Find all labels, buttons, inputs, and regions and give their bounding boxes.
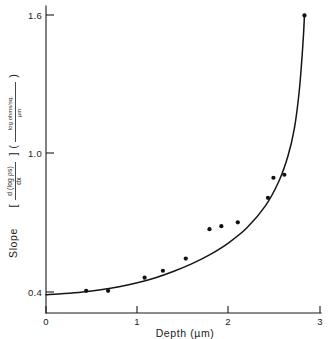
data-point xyxy=(143,276,147,280)
data-point xyxy=(266,196,270,200)
y-axis-ticks xyxy=(46,15,54,292)
data-point xyxy=(106,289,110,293)
y-axis-title-close-bracket: ] xyxy=(7,152,19,155)
x-tick-label-1: 1 xyxy=(134,316,140,327)
units-denominator: µm xyxy=(16,109,22,117)
y-axis-title-derivative-fraction: d (log ρs) dx xyxy=(6,162,22,200)
data-point xyxy=(207,227,211,231)
y-tick-label-mid: 1.0 xyxy=(28,148,42,159)
data-point xyxy=(84,289,88,293)
y-axis-title-open-paren: ( xyxy=(7,145,19,149)
fitted-curve xyxy=(46,15,304,295)
y-axis-title-group: Slope [ d (log ρs) dx ] ( log ohms/sq. µ… xyxy=(6,74,22,258)
data-point xyxy=(236,220,240,224)
data-point xyxy=(184,256,188,260)
data-point xyxy=(302,13,306,17)
x-tick-label-0: 0 xyxy=(43,316,49,327)
y-axis-title-close-paren: ) xyxy=(7,74,19,78)
x-axis-ticks xyxy=(46,306,320,313)
data-point-group xyxy=(84,13,306,293)
derivative-numerator: d (log ρs) xyxy=(6,166,14,196)
data-point xyxy=(271,176,275,180)
data-point xyxy=(219,224,223,228)
y-axis-title-lead: Slope xyxy=(7,228,19,258)
y-axis-title-units-fraction: log ohms/sq. µm xyxy=(7,82,22,142)
x-axis-title: Depth (µm) xyxy=(156,327,215,339)
y-axis-title-open-bracket: [ xyxy=(7,204,19,207)
x-tick-label-2: 2 xyxy=(225,316,231,327)
y-tick-label-low: 0.4 xyxy=(28,287,42,298)
x-tick-label-3: 3 xyxy=(317,316,323,327)
data-point xyxy=(161,269,165,273)
x-axis-tick-labels: 0 1 2 3 xyxy=(43,316,323,327)
data-point xyxy=(282,173,286,177)
derivative-denominator: dx xyxy=(15,177,22,185)
y-tick-label-high: 1.6 xyxy=(28,10,42,21)
units-numerator: log ohms/sq. xyxy=(7,96,13,130)
chart-figure: 1.6 1.0 0.4 0 1 2 3 Depth (µm) Slope [ xyxy=(0,0,331,339)
y-axis-tick-labels: 1.6 1.0 0.4 xyxy=(28,10,42,298)
scatter-plot-svg: 1.6 1.0 0.4 0 1 2 3 Depth (µm) Slope [ xyxy=(0,0,331,339)
